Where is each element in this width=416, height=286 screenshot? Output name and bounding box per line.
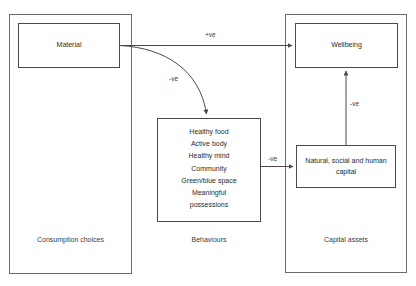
list-item: Community	[158, 163, 260, 175]
node-wellbeing[interactable]: Wellbeing	[295, 23, 398, 68]
list-item: Active body	[158, 138, 260, 150]
edge-label-behaviours-to-capital: -ve	[267, 155, 278, 163]
list-item: Healthy food	[158, 126, 260, 138]
node-natural-social-human-capital[interactable]: Natural, social and human capital	[296, 145, 396, 188]
list-item: Meaningful	[158, 187, 260, 199]
edge-label-capital-to-wellbeing: -ve	[349, 100, 360, 108]
group-label-consumption-choices: Consumption choices	[9, 235, 132, 244]
list-item: Green/blue space	[158, 175, 260, 187]
node-wellbeing-label: Wellbeing	[331, 40, 362, 51]
list-item: possessions	[158, 199, 260, 211]
node-material-label: Material	[57, 40, 82, 51]
list-item: Healthy mind	[158, 150, 260, 162]
diagram-canvas: Material Wellbeing Healthy food Active b…	[0, 0, 416, 286]
group-label-behaviours: Behaviours	[157, 235, 261, 244]
node-capital-label: Natural, social and human capital	[297, 156, 395, 177]
edge-material-to-behaviours	[120, 46, 207, 115]
node-material[interactable]: Material	[18, 23, 120, 68]
group-label-capital-assets: Capital assets	[285, 235, 407, 244]
edge-label-material-to-behaviours: -ve	[168, 75, 179, 83]
edge-label-material-to-wellbeing: +ve	[204, 31, 217, 39]
node-behaviours-list[interactable]: Healthy food Active body Healthy mind Co…	[157, 118, 261, 222]
